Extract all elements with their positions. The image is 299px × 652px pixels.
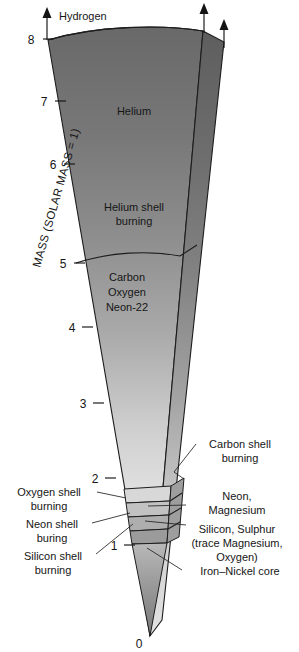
leader-neon-shell-burning <box>92 513 130 523</box>
label-helium: Helium <box>117 105 151 117</box>
tick-label-3: 3 <box>80 397 87 411</box>
label-oxygen-shell-burning-line1: Oxygen shell <box>17 486 81 498</box>
label-carbon-oxygen-neon-line1: Carbon <box>109 271 145 283</box>
stellar-structure-diagram: 8 7 6 5 4 3 2 1 0 MASS (SOLAR MASS = 1) … <box>0 0 299 652</box>
label-silicon-sulphur-line1: Silicon, Sulphur <box>199 523 276 535</box>
label-hydrogen: Hydrogen <box>59 10 107 22</box>
label-carbon-oxygen-neon-line2: Oxygen <box>108 286 146 298</box>
tick-label-0: 0 <box>136 637 143 651</box>
surface-arrow-head-1 <box>200 3 209 14</box>
tick-label-2: 2 <box>92 472 99 486</box>
band-oxygen-shell-burning <box>126 501 170 517</box>
label-neon-magnesium-line1: Neon, <box>222 490 251 502</box>
label-carbon-oxygen-neon-line3: Neon-22 <box>106 301 148 313</box>
label-oxygen-shell-burning-line2: burning <box>31 500 68 512</box>
diagram-canvas: 8 7 6 5 4 3 2 1 0 MASS (SOLAR MASS = 1) … <box>0 0 299 652</box>
tick-label-5: 5 <box>60 257 67 271</box>
band-silicon-shell-burning <box>130 529 168 544</box>
label-silicon-sulphur-line3: Oxygen) <box>216 551 258 563</box>
surface-arrow-head-2 <box>220 19 229 30</box>
label-silicon-shell-burning-line2: burning <box>35 564 72 576</box>
band-carbon-shell-burning <box>124 486 171 503</box>
axis-arrow-head <box>43 7 52 18</box>
left-callout-labels: Oxygen shell burning Neon shell buring S… <box>17 486 82 576</box>
right-callout-labels: Carbon shell burning Neon, Magnesium Sil… <box>191 438 282 577</box>
label-silicon-sulphur-line2: (trace Magnesium, <box>191 537 282 549</box>
label-carbon-shell-burning-line1: Carbon shell <box>209 438 271 450</box>
tick-label-7: 7 <box>41 95 48 109</box>
label-iron-nickel-core: Iron–Nickel core <box>200 565 279 577</box>
label-carbon-shell-burning-line2: burning <box>222 452 259 464</box>
label-neon-magnesium-line2: Magnesium <box>209 504 266 516</box>
label-helium-shell-burning-line2: burning <box>116 215 153 227</box>
leader-oxygen-shell-burning <box>97 492 126 498</box>
core-shell-bands <box>124 478 184 636</box>
axis-title: MASS (SOLAR MASS = 1) <box>30 127 81 269</box>
tick-label-1: 1 <box>111 539 118 553</box>
label-silicon-shell-burning-line1: Silicon shell <box>24 550 82 562</box>
tick-label-4: 4 <box>69 321 76 335</box>
label-neon-shell-burning-line2: buring <box>37 532 68 544</box>
tick-label-6: 6 <box>50 158 57 172</box>
tick-label-8: 8 <box>28 33 35 47</box>
label-neon-shell-burning-line1: Neon shell <box>26 518 78 530</box>
label-helium-shell-burning-line1: Helium shell <box>104 201 164 213</box>
